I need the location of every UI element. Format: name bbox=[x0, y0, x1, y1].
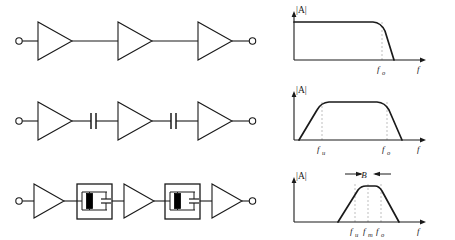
x-axis-arrow-icon bbox=[420, 58, 426, 63]
x-tick-label-fo: f o bbox=[376, 226, 385, 238]
chart-narrowband: B |A| f u f m f bbox=[265, 160, 455, 240]
bandwidth-label: B bbox=[361, 170, 367, 180]
x-tick-fu-sub: u bbox=[322, 149, 326, 156]
x-tick-label-fo: f o bbox=[382, 144, 391, 156]
figure-row-bandpass: |A| f u f o f bbox=[0, 80, 455, 160]
x-tick-fo-base: f bbox=[382, 144, 386, 154]
input-terminal-icon bbox=[16, 38, 22, 44]
amplifier-triangle-3 bbox=[212, 184, 242, 218]
x-tick-label-fm: f m bbox=[363, 226, 373, 238]
response-curve bbox=[338, 186, 399, 222]
chart-wideband: |A| f o f bbox=[265, 0, 455, 80]
x-axis-arrow-icon bbox=[420, 138, 426, 143]
amplifier-triangle-1 bbox=[38, 102, 72, 140]
x-axis-arrow-icon bbox=[420, 220, 426, 225]
circuit-wideband bbox=[0, 0, 265, 80]
crystal-icon-1 bbox=[87, 194, 93, 209]
crystal-filter-box-1 bbox=[77, 184, 112, 219]
figure-row-wideband: |A| f o f bbox=[0, 0, 455, 80]
bandwidth-arrow-right-icon bbox=[373, 172, 380, 176]
x-tick-fo-sub: o bbox=[382, 69, 386, 76]
crystal-filter-box-2 bbox=[165, 184, 200, 219]
x-axis-label: f bbox=[417, 144, 421, 154]
output-terminal-icon bbox=[249, 38, 255, 44]
amplifier-triangle-2 bbox=[124, 184, 154, 218]
x-tick-fo-base: f bbox=[376, 226, 380, 236]
y-axis-label: |A| bbox=[296, 171, 307, 181]
x-tick-fo-sub: o bbox=[381, 231, 385, 238]
response-curve bbox=[299, 102, 402, 140]
x-tick-label-fu: f u bbox=[317, 144, 326, 156]
x-tick-fu-base: f bbox=[350, 226, 354, 236]
y-axis-label: |A| bbox=[296, 85, 307, 95]
amplifier-triangle-2 bbox=[118, 22, 152, 60]
amplifier-triangle-3 bbox=[198, 22, 232, 60]
circuit-narrowband bbox=[0, 160, 265, 240]
amplifier-triangle-1 bbox=[38, 22, 72, 60]
input-terminal-icon bbox=[16, 198, 22, 204]
response-curve bbox=[294, 22, 394, 60]
y-axis-label: |A| bbox=[296, 5, 307, 15]
input-terminal-icon bbox=[16, 118, 22, 124]
output-terminal-icon bbox=[249, 118, 255, 124]
x-tick-fu-sub: u bbox=[355, 231, 359, 238]
x-tick-fu-base: f bbox=[317, 144, 321, 154]
amplifier-triangle-2 bbox=[118, 102, 152, 140]
x-tick-fo-base: f bbox=[377, 64, 381, 74]
chart-bandpass: |A| f u f o f bbox=[265, 80, 455, 160]
x-tick-label-fu: f u bbox=[350, 226, 359, 238]
x-axis-label: f bbox=[417, 226, 421, 236]
x-axis-label: f bbox=[417, 64, 421, 74]
crystal-icon-2 bbox=[175, 194, 181, 209]
capacitor-icon-2 bbox=[171, 113, 176, 129]
x-tick-fm-sub: m bbox=[368, 231, 373, 238]
x-tick-fm-base: f bbox=[363, 226, 367, 236]
figure-canvas: |A| f o f bbox=[0, 0, 455, 240]
amplifier-triangle-1 bbox=[34, 184, 64, 218]
x-tick-label-fo: f o bbox=[377, 64, 386, 76]
x-tick-fo-sub: o bbox=[387, 149, 391, 156]
capacitor-icon-1 bbox=[91, 113, 96, 129]
output-terminal-icon bbox=[249, 198, 255, 204]
figure-row-narrowband: B |A| f u f m f bbox=[0, 160, 455, 240]
amplifier-triangle-3 bbox=[198, 102, 232, 140]
circuit-bandpass bbox=[0, 80, 265, 160]
bandwidth-marker: B bbox=[345, 170, 391, 180]
